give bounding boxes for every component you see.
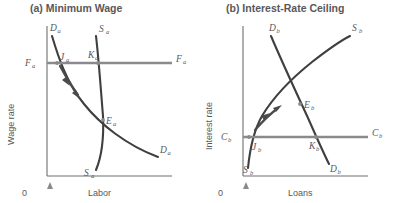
panel-a-supply-label-bottom: S a xyxy=(84,168,94,179)
panel-b-ceiling-label-left-sub: b xyxy=(228,136,232,143)
panel-a-point-K-dot xyxy=(96,61,100,65)
panel-b-point-E-dot xyxy=(298,102,302,106)
panel-a-point-J-label-sub: a xyxy=(66,56,69,63)
panel-b-point-J-dot xyxy=(247,135,251,139)
panel-b-ceiling-label-right: C b xyxy=(372,128,383,139)
panel-b-point-E-label: E b xyxy=(303,100,315,111)
panel-b-title: (b) Interest-Rate Ceiling xyxy=(226,2,344,14)
panel-a-floor-label-left-sub: a xyxy=(32,62,35,69)
panel-b-demand-label-top-main: D xyxy=(268,23,276,33)
panel-a-point-E-label-sub: a xyxy=(113,120,116,127)
panel-b-triangle-marker xyxy=(243,182,249,189)
panel-a-supply-label-bottom-sub: a xyxy=(91,172,94,179)
panel-b-demand-label-top-sub: b xyxy=(277,27,281,34)
panel-a-point-J-dot xyxy=(55,61,59,65)
panel-a-supply-label-top-main: S xyxy=(99,24,104,34)
panel-a-point-J-label-main: J xyxy=(60,52,65,62)
panel-a-supply-label-bottom-main: S xyxy=(84,168,89,178)
panel-b-supply-curve xyxy=(248,36,350,168)
panel-b-point-K-label-main: K xyxy=(308,141,316,151)
panel-a-title: (a) Minimum Wage xyxy=(30,2,123,14)
panel-a: (a) Minimum Wage Wage rate Labor 0 F a xyxy=(6,2,186,198)
panel-b-supply-label-bottom-sub: b xyxy=(250,169,254,176)
panel-a-point-E-label: E a xyxy=(105,116,116,127)
panel-b-supply-label-top-sub: b xyxy=(359,27,363,34)
panel-b-supply-label-top: S b xyxy=(352,23,363,34)
panel-a-demand-curve xyxy=(52,36,158,157)
panel-a-point-K-label-sub: a xyxy=(95,54,98,61)
panel-b-ceiling-label-left-main: C xyxy=(221,132,228,142)
panel-a-demand-label-end-sub: a xyxy=(168,149,171,156)
panel-a-supply-label-top-sub: a xyxy=(106,28,109,35)
panel-a-x-axis-label: Labor xyxy=(88,188,111,198)
panel-a-y-axis-label: Wage rate xyxy=(6,104,16,145)
panel-a-demand-label-top: D a xyxy=(49,23,61,34)
panel-a-floor-label-right-main: F xyxy=(175,54,182,64)
panel-b-demand-label-bottom: D b xyxy=(329,164,342,175)
panel-a-demand-label-top-main: D xyxy=(49,23,57,33)
panel-b-origin-label: 0 xyxy=(218,188,223,198)
panel-b-point-E-label-sub: b xyxy=(311,104,315,111)
panel-a-floor-label-right: F a xyxy=(175,54,186,65)
panel-b-point-E-label-main: E xyxy=(303,100,310,110)
panel-b-x-axis-label: Loans xyxy=(288,188,313,198)
panel-b-point-J-label-main: J xyxy=(252,142,257,152)
panel-a-point-K-label: K a xyxy=(87,50,98,61)
panel-b: (b) Interest-Rate Ceiling Interest rate … xyxy=(204,2,383,198)
panel-b-adjustment-arrow-shaft xyxy=(255,108,278,130)
panel-b-demand-label-top: D b xyxy=(268,23,281,34)
panel-a-origin-label: 0 xyxy=(22,188,27,198)
panel-b-supply-label-bottom-main: S xyxy=(243,165,248,175)
panel-a-floor-label-left-main: F xyxy=(24,58,31,68)
panel-a-demand-label-end: D a xyxy=(159,145,171,156)
panel-b-point-K-dot xyxy=(314,135,318,139)
panel-a-supply-label-top: S a xyxy=(99,24,109,35)
panel-a-point-J-label: J a xyxy=(60,52,69,63)
economics-figure: (a) Minimum Wage Wage rate Labor 0 F a xyxy=(0,0,397,203)
panel-b-point-K-label-sub: b xyxy=(316,145,320,152)
panel-a-floor-label-right-sub: a xyxy=(183,58,186,65)
panel-a-floor-label-left: F a xyxy=(24,58,35,69)
panel-b-point-J-label-sub: b xyxy=(258,146,262,153)
panel-a-point-E-dot xyxy=(101,118,105,122)
panel-a-point-K-label-main: K xyxy=(87,50,95,60)
panel-b-ceiling-label-right-sub: b xyxy=(379,132,383,139)
panel-b-point-J-label: J b xyxy=(252,142,262,153)
panel-b-ceiling-label-left: C b xyxy=(221,132,232,143)
panel-b-supply-label-top-main: S xyxy=(352,23,357,33)
panel-a-demand-label-top-sub: a xyxy=(58,27,61,34)
panel-a-triangle-marker xyxy=(47,182,53,189)
panel-a-demand-label-end-main: D xyxy=(159,145,167,155)
panel-a-point-E-label-main: E xyxy=(105,116,112,126)
panel-b-ceiling-label-right-main: C xyxy=(372,128,379,138)
panel-b-y-axis-label: Interest rate xyxy=(204,102,214,150)
figure-canvas: (a) Minimum Wage Wage rate Labor 0 F a xyxy=(0,0,397,203)
panel-b-demand-label-bottom-main: D xyxy=(329,164,337,174)
panel-b-demand-label-bottom-sub: b xyxy=(338,168,342,175)
